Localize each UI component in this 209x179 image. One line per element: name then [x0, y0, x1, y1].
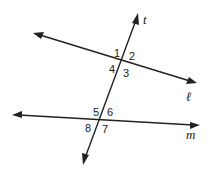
arrowhead-bottom-icon — [82, 153, 89, 165]
arrowhead-left-icon — [12, 111, 22, 118]
angle-3: 3 — [123, 67, 129, 79]
label-t: t — [143, 12, 147, 27]
label-m: m — [186, 127, 195, 142]
angle-7: 7 — [102, 123, 108, 135]
arrowhead-right-icon — [186, 77, 197, 84]
angle-6: 6 — [107, 106, 113, 118]
angle-5: 5 — [93, 106, 99, 118]
line-t — [82, 13, 139, 165]
label-l: ℓ — [186, 89, 192, 104]
angle-4: 4 — [109, 63, 115, 75]
diagram-canvas: t ℓ m 1 2 4 3 5 6 8 7 — [0, 0, 209, 179]
arrowhead-top-icon — [132, 13, 139, 25]
angle-1: 1 — [114, 47, 120, 59]
arrowhead-left-icon — [33, 32, 44, 39]
angle-2: 2 — [129, 50, 135, 62]
angle-8: 8 — [85, 122, 91, 134]
